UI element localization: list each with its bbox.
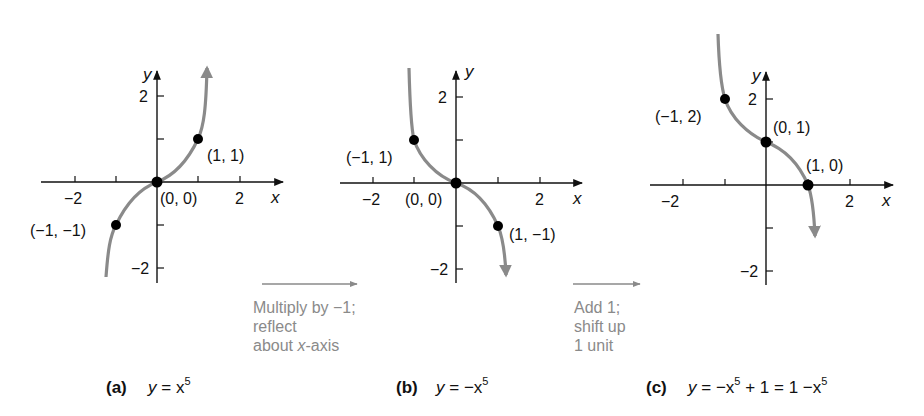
- x-tick-label-neg2: −2: [661, 193, 679, 210]
- y-tick-label-neg2: −2: [740, 263, 758, 280]
- point-label: (1, 0): [806, 157, 843, 174]
- point-label: (0, 0): [405, 191, 442, 208]
- y-axis-label: y: [464, 62, 475, 81]
- point-label: (−1, −1): [30, 222, 86, 239]
- caption-equation: y = x5: [147, 375, 191, 397]
- point-label: (0, 0): [160, 190, 197, 207]
- x-tick-label-neg2: −2: [64, 190, 82, 207]
- step-text-line: shift up: [574, 318, 626, 335]
- x-tick-label-2: 2: [235, 190, 244, 207]
- x-tick-label-neg2: −2: [362, 191, 380, 208]
- y-axis-label: y: [751, 66, 762, 85]
- x-tick-label-2: 2: [845, 193, 854, 210]
- y-axis-label: y: [142, 65, 153, 84]
- caption-letter: (a): [106, 378, 127, 397]
- point-label: (1, 1): [207, 147, 244, 164]
- graph-c: −2 2 2 −2 x y (−1, 2) (0, 1) (1, 0): [650, 34, 893, 285]
- caption-a: (a) y = x5: [106, 375, 191, 397]
- caption-letter: (b): [396, 378, 418, 397]
- y-tick-label-neg2: −2: [430, 261, 448, 278]
- point-label: (−1, 1): [346, 149, 393, 166]
- caption-equation: y = −x5: [435, 375, 488, 397]
- point-label: (−1, 2): [655, 108, 702, 125]
- step-text-line: 1 unit: [574, 337, 614, 354]
- step-text-line: Multiply by −1;: [253, 299, 356, 316]
- x-axis-label: x: [270, 188, 280, 207]
- y-tick-label-2: 2: [748, 91, 757, 108]
- caption-c: (c) y = −x5 + 1 = 1 −x5: [646, 375, 827, 397]
- x-tick-label-2: 2: [535, 191, 544, 208]
- caption-b: (b) y = −x5: [396, 375, 488, 397]
- data-points: [720, 94, 814, 191]
- function-transformation-figure: −2 2 2 −2 x y (−1, −1) (0, 0) (1, 1) −2 …: [0, 0, 924, 416]
- caption-letter: (c): [646, 378, 667, 397]
- y-tick-label-neg2: −2: [131, 260, 149, 277]
- y-tick-label-2: 2: [139, 88, 148, 105]
- graph-b: −2 2 2 −2 x y (−1, 1) (0, 0) (1, −1): [340, 62, 582, 283]
- curve: [409, 68, 506, 275]
- step-text-line: about x-axis: [253, 337, 339, 354]
- step-text-line: reflect: [253, 318, 297, 335]
- graph-a: −2 2 2 −2 x y (−1, −1) (0, 0) (1, 1): [30, 65, 283, 283]
- caption-equation: y = −x5 + 1 = 1 −x5: [687, 375, 827, 397]
- point-label: (1, −1): [509, 226, 556, 243]
- x-axis-label: x: [572, 189, 582, 208]
- x-axis-label: x: [881, 191, 891, 210]
- step-text-line: Add 1;: [574, 299, 620, 316]
- y-tick-label-2: 2: [438, 89, 447, 106]
- transform-step-1: Multiply by −1; reflect about x-axis: [253, 284, 357, 354]
- transform-step-2: Add 1; shift up 1 unit: [573, 284, 640, 354]
- point-label: (0, 1): [773, 119, 810, 136]
